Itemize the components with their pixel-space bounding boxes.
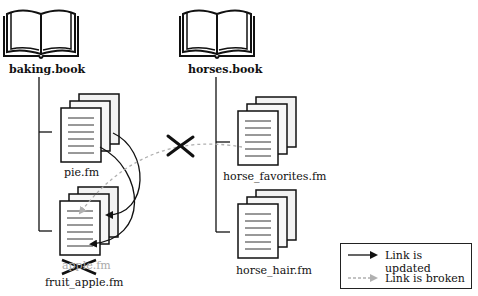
book-label-horses: horses.book — [188, 63, 262, 76]
legend-item-broken: Link is broken — [341, 270, 471, 288]
legend: Link is updated Link is broken — [340, 243, 472, 289]
legend-item-updated: Link is updated — [341, 247, 471, 265]
file-label-horse-hair: horse_hair.fm — [236, 264, 312, 277]
tree-lines-baking — [39, 77, 52, 231]
legend-label-broken: Link is broken — [385, 272, 465, 285]
tree-lines-horses — [216, 77, 230, 232]
doc-icon-fruit-apple — [60, 187, 118, 255]
book-label-baking: baking.book — [9, 63, 85, 76]
book-icon-horses — [180, 11, 254, 59]
file-label-horse-favorites: horse_favorites.fm — [223, 170, 326, 183]
doc-icon-horse-favorites — [238, 97, 296, 165]
doc-icon-horse-hair — [238, 190, 296, 258]
doc-icon-pie — [61, 94, 119, 162]
file-label-old-apple: apple.fm — [62, 259, 111, 272]
file-label-pie: pie.fm — [64, 166, 99, 179]
file-label-fruit-apple: fruit_apple.fm — [45, 276, 124, 289]
book-icon-baking — [4, 11, 78, 59]
diagram: baking.book horses.book pie.fm apple.fm … — [0, 0, 478, 296]
broken-link-x-icon — [168, 136, 193, 156]
